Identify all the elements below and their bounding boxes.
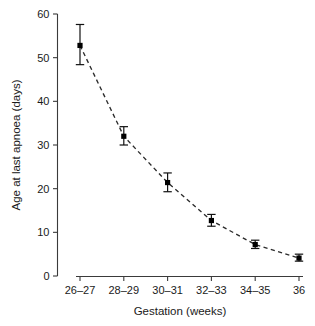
x-tick-label: 26–27 (65, 284, 96, 296)
x-axis-title: Gestation (weeks) (134, 305, 227, 317)
x-tick-label: 28–29 (109, 284, 140, 296)
chart-figure: 0102030405060 26–2728–2930–3132–3334–353… (0, 0, 315, 326)
y-axis-title: Age at last apnoea (days) (10, 79, 22, 210)
data-point-marker (209, 218, 214, 223)
y-tick-label: 60 (37, 8, 49, 20)
x-tick-label: 32–33 (196, 284, 227, 296)
y-tick-label: 40 (37, 95, 49, 107)
y-tick-label: 10 (37, 226, 49, 238)
y-tick-label: 30 (37, 139, 49, 151)
data-point-marker (121, 134, 126, 139)
apnoea-vs-gestation-scatter-chart: 0102030405060 26–2728–2930–3132–3334–353… (0, 0, 315, 326)
x-tick-label: 34–35 (240, 284, 271, 296)
y-tick-label: 20 (37, 183, 49, 195)
x-tick-label: 36 (293, 284, 305, 296)
y-tick-label: 50 (37, 52, 49, 64)
data-point-marker (296, 255, 301, 260)
data-point-marker (165, 180, 170, 185)
data-point-marker (253, 242, 258, 247)
y-tick-label: 0 (43, 270, 49, 282)
x-tick-label: 30–31 (152, 284, 183, 296)
data-point-marker (77, 43, 82, 48)
